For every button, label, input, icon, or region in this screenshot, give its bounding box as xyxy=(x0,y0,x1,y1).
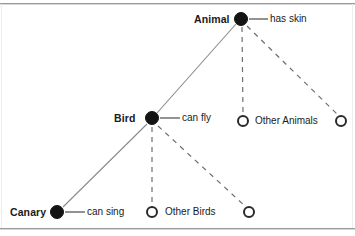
link-animal-to-bird xyxy=(157,24,236,113)
label-canary: Canary xyxy=(10,207,46,218)
semantic-network-figure: Animal has skin Bird can fly Other Anima… xyxy=(0,0,355,236)
link-animal-to-other-animal-2 xyxy=(247,26,337,114)
node-other-birds-1[interactable] xyxy=(146,206,158,218)
node-other-animals-2[interactable] xyxy=(335,115,347,127)
link-bird-to-other-bird-2 xyxy=(158,126,245,206)
label-animal: Animal xyxy=(194,14,230,25)
node-other-birds-2[interactable] xyxy=(243,206,255,218)
link-animal-to-other-animal-1 xyxy=(242,27,243,113)
node-animal[interactable] xyxy=(234,12,248,26)
label-canary-property: can sing xyxy=(87,207,124,217)
label-other-birds: Other Birds xyxy=(165,207,216,217)
node-bird[interactable] xyxy=(145,111,159,125)
label-other-animals: Other Animals xyxy=(255,116,318,126)
label-animal-property: has skin xyxy=(270,14,307,24)
node-canary[interactable] xyxy=(50,205,64,219)
node-other-animals-1[interactable] xyxy=(237,115,249,127)
label-bird-property: can fly xyxy=(182,113,211,123)
link-bird-to-canary xyxy=(63,124,147,207)
label-bird: Bird xyxy=(114,113,135,124)
